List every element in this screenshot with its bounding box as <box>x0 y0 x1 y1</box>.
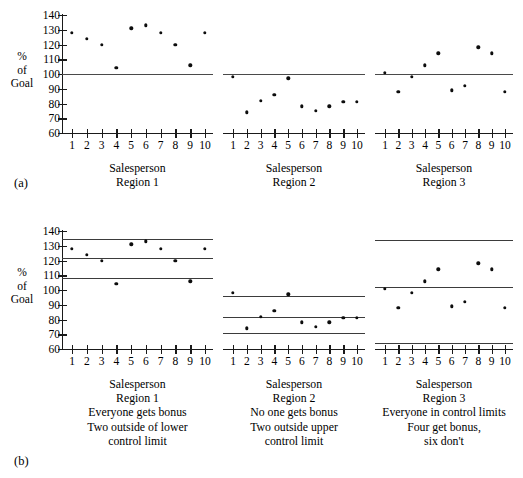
data-point <box>286 77 289 80</box>
y-axis-tick <box>58 231 67 232</box>
x-axis-tick <box>131 129 132 138</box>
y-axis-tick <box>58 118 67 119</box>
data-point <box>423 63 426 66</box>
subplot-a-region-3: 12345678910 <box>375 0 513 147</box>
x-tick-label: 10 <box>197 139 213 151</box>
caption-line: Region 2 <box>223 175 365 189</box>
y-axis-tick <box>58 89 67 90</box>
x-tick-label: 5 <box>123 139 139 151</box>
x-axis-tick <box>288 129 289 138</box>
reference-line-goal <box>223 74 365 75</box>
x-axis-tick <box>412 345 413 354</box>
x-axis-tick <box>302 129 303 138</box>
data-point <box>490 52 493 55</box>
subplot-a-region-1: 12345678910 <box>62 0 213 147</box>
data-point <box>273 93 276 96</box>
data-point <box>231 291 234 294</box>
x-axis-tick <box>274 129 275 138</box>
data-point <box>328 105 331 108</box>
caption-line: Two outside upper <box>223 420 365 434</box>
x-axis-tick <box>316 345 317 354</box>
data-point <box>144 240 147 243</box>
x-tick-label: 10 <box>497 355 513 367</box>
panel-group-b: %ofGoal 60708090100110120130140 12345678… <box>0 215 523 478</box>
data-point <box>100 259 103 262</box>
data-point <box>503 90 506 93</box>
x-tick-label: 5 <box>123 355 139 367</box>
x-tick-label: 10 <box>349 139 365 151</box>
x-tick-label: 4 <box>108 355 124 367</box>
x-tick-label: 10 <box>349 355 365 367</box>
caption-line: Four get bonus, <box>375 420 513 434</box>
subplot-b-region-1: 12345678910 <box>62 215 213 363</box>
x-axis-tick <box>161 345 162 354</box>
data-point <box>85 37 88 40</box>
x-tick-label: 10 <box>197 355 213 367</box>
caption-line: Salesperson <box>62 377 213 391</box>
caption-line: Two outside of lower <box>62 420 213 434</box>
x-axis-tick <box>438 129 439 138</box>
x-axis-tick <box>72 129 73 138</box>
data-point <box>328 321 331 324</box>
data-point <box>174 43 177 46</box>
x-axis-tick <box>72 345 73 354</box>
data-point <box>245 327 248 330</box>
x-tick-label: 7 <box>153 355 169 367</box>
x-axis-tick <box>146 129 147 138</box>
caption-line: six don't <box>375 434 513 448</box>
y-axis-tick <box>58 275 67 276</box>
y-axis-tick <box>58 30 67 31</box>
caption-line: Region 2 <box>223 391 365 405</box>
x-tick-label: 3 <box>94 355 110 367</box>
caption-line: Region 3 <box>375 391 513 405</box>
x-axis-tick <box>505 129 506 138</box>
x-tick-label: 3 <box>94 139 110 151</box>
data-point <box>300 321 303 324</box>
caption-line: Region 1 <box>62 391 213 405</box>
x-axis-tick <box>102 129 103 138</box>
x-axis-tick <box>343 129 344 138</box>
x-axis-tick <box>205 129 206 138</box>
y-axis-tick <box>58 305 67 306</box>
caption-line: Salesperson <box>62 161 213 175</box>
x-tick-label: 6 <box>138 139 154 151</box>
data-point <box>203 247 206 250</box>
x-axis-tick <box>175 129 176 138</box>
x-axis-tick <box>452 129 453 138</box>
data-point <box>159 31 162 34</box>
x-tick-label: 9 <box>182 355 198 367</box>
caption-line: Salesperson <box>223 377 365 391</box>
reference-line-ucl <box>62 239 213 240</box>
y-axis-tick <box>58 261 67 262</box>
y-axis-tick <box>58 320 67 321</box>
data-point <box>144 24 147 27</box>
data-point <box>159 247 162 250</box>
x-tick-label: 4 <box>108 139 124 151</box>
subplot-b-region-3: 12345678910 <box>375 215 513 363</box>
x-axis-tick <box>247 345 248 354</box>
panel-label-a: (a) <box>14 176 28 191</box>
data-point <box>100 43 103 46</box>
x-axis-tick <box>102 345 103 354</box>
subplot-b-region-2: 12345678910 <box>223 215 365 363</box>
data-point <box>410 291 413 294</box>
data-point <box>397 306 400 309</box>
caption-a-region-1: SalespersonRegion 1 <box>62 161 213 189</box>
x-axis-tick <box>329 345 330 354</box>
x-axis-tick <box>302 345 303 354</box>
y-axis-tick <box>58 45 67 46</box>
data-point <box>450 305 453 308</box>
x-axis-tick <box>146 345 147 354</box>
data-point <box>463 84 466 87</box>
panel-label-b: (b) <box>14 454 29 469</box>
x-axis-tick <box>385 345 386 354</box>
data-point <box>450 89 453 92</box>
y-axis-tick <box>58 290 67 291</box>
data-point <box>437 52 440 55</box>
x-axis-tick <box>343 345 344 354</box>
x-axis-tick <box>274 345 275 354</box>
x-axis-tick <box>316 129 317 138</box>
x-tick-label: 8 <box>167 139 183 151</box>
data-point <box>203 31 206 34</box>
x-axis-tick <box>205 345 206 354</box>
